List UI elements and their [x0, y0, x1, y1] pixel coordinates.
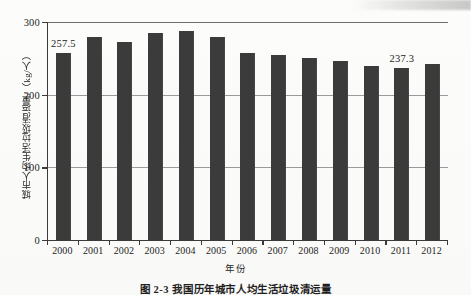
x-axis-title: 年份 [0, 261, 471, 275]
y-axis-title-label: 城市人均生活垃圾清运量/（kg/人） [20, 51, 34, 199]
bar-item [233, 22, 264, 240]
x-axis-label-2003: 2003 [139, 245, 170, 259]
bar-2003 [148, 33, 163, 240]
y-tick-label-300: 300 [24, 17, 40, 28]
x-axis-label-2000: 2000 [47, 245, 78, 259]
x-axis-label-2008: 2008 [293, 245, 324, 259]
x-axis-label-2004: 2004 [170, 245, 201, 259]
bar-item [417, 22, 448, 240]
bar-2004 [179, 31, 194, 240]
bar-2006 [240, 53, 255, 240]
bar-2009 [333, 61, 348, 240]
bar-2010 [364, 66, 379, 240]
y-tick-label-200: 200 [24, 89, 40, 100]
x-axis-label-2011: 2011 [385, 245, 416, 259]
bar-item [294, 22, 325, 240]
bar-2005 [210, 37, 225, 240]
x-axis-labels: 2000200120022003200420052006200720082009… [47, 245, 447, 259]
bar-item [356, 22, 387, 240]
y-tick-label-100: 100 [24, 162, 40, 173]
bar-item: 257.5 [48, 22, 79, 240]
bar-item [202, 22, 233, 240]
bar-2012 [425, 64, 440, 240]
bar-2007 [271, 55, 286, 240]
y-axis-title: 城市人均生活垃圾清运量/（kg/人） [20, 30, 34, 220]
bar-item [110, 22, 141, 240]
x-axis-label-2010: 2010 [355, 245, 386, 259]
bar-item [79, 22, 110, 240]
y-tick-label-0: 0 [35, 235, 40, 246]
bar-item [325, 22, 356, 240]
bar-2008 [302, 58, 317, 240]
x-axis-label-2007: 2007 [262, 245, 293, 259]
bar-item [263, 22, 294, 240]
bar-2000 [56, 53, 71, 240]
bar-item [140, 22, 171, 240]
x-axis-label-2001: 2001 [78, 245, 109, 259]
x-axis-label-2006: 2006 [232, 245, 263, 259]
bar-value-label-2011: 237.3 [389, 53, 414, 64]
bar-2001 [87, 37, 102, 240]
x-axis-label-2005: 2005 [201, 245, 232, 259]
x-axis-label-2009: 2009 [324, 245, 355, 259]
bar-2002 [117, 42, 132, 240]
bar-series: 257.5237.3 [48, 22, 448, 240]
bar-chart: 城市人均生活垃圾清运量/（kg/人） 0100200300 257.5237.3… [0, 0, 471, 270]
bar-item: 237.3 [386, 22, 417, 240]
figure-caption: 图 2-3 我国历年城市人均生活垃圾清运量 [0, 281, 471, 295]
figure-page: 城市人均生活垃圾清运量/（kg/人） 0100200300 257.5237.3… [0, 0, 471, 295]
plot-area: 0100200300 257.5237.3 [47, 22, 448, 241]
x-axis-label-2002: 2002 [109, 245, 140, 259]
x-axis-label-2012: 2012 [416, 245, 447, 259]
bar-value-label-2000: 257.5 [51, 38, 76, 49]
bar-2011 [394, 68, 409, 240]
bar-item [171, 22, 202, 240]
x-tick-13 [447, 240, 448, 245]
